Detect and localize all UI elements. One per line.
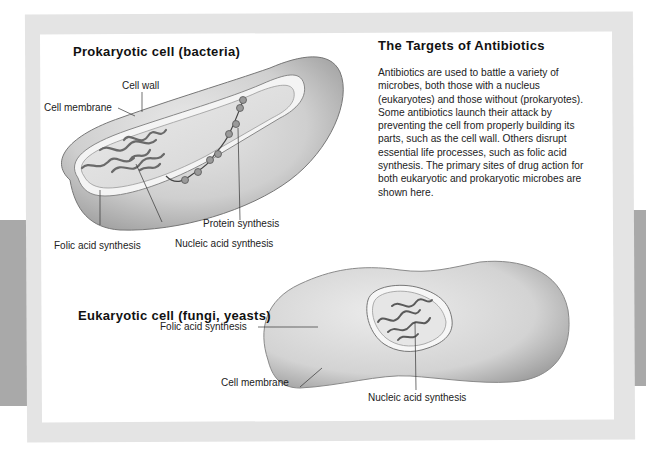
label-protein-synthesis: Protein synthesis [203, 218, 279, 229]
label-cell-wall: Cell wall [122, 80, 159, 91]
figure-body: Antibiotics are used to battle a variety… [378, 66, 588, 199]
label-folic-acid-prokaryote: Folic acid synthesis [54, 240, 141, 251]
prokaryote-title: Prokaryotic cell (bacteria) [73, 44, 240, 59]
label-folic-acid-eukaryote: Folic acid synthesis [160, 321, 247, 332]
eukaryotic-cell [258, 261, 569, 390]
label-nucleic-acid-eukaryote: Nucleic acid synthesis [368, 392, 466, 403]
prokaryotic-cell [61, 57, 343, 230]
label-nucleic-acid-prokaryote: Nucleic acid synthesis [175, 238, 273, 249]
label-cell-membrane: Cell membrane [44, 102, 112, 113]
figure-heading: The Targets of Antibiotics [378, 38, 545, 53]
label-cell-membrane-eukaryote: Cell membrane [221, 377, 289, 388]
